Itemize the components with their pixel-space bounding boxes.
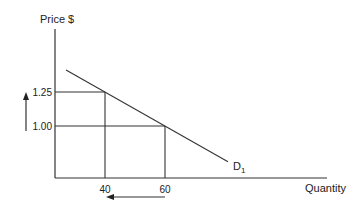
- demand-curve-label: D1: [233, 160, 246, 175]
- demand-chart: Price $ Quantity 1.251.004060 D1: [0, 0, 363, 215]
- demand-curve-line: [66, 70, 228, 162]
- demand-label-main: D: [233, 160, 241, 172]
- price-increase-arrow: [23, 92, 29, 131]
- x-tick-label: 40: [99, 184, 111, 195]
- y-tick-label: 1.00: [33, 121, 53, 132]
- x-axis-label: Quantity: [305, 182, 346, 194]
- y-axis-label: Price $: [40, 13, 74, 25]
- quantity-decrease-arrow: [106, 194, 165, 200]
- x-tick-label: 60: [159, 184, 171, 195]
- y-tick-label: 1.25: [33, 87, 53, 98]
- demand-label-subscript: 1: [241, 166, 246, 175]
